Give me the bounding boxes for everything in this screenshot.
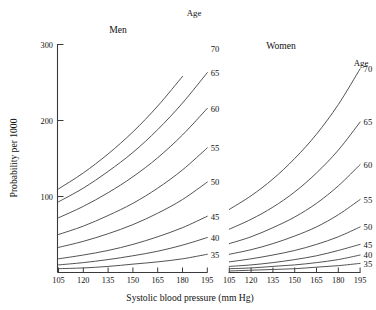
curve-label-women-age-70: 70 — [364, 64, 373, 74]
x-tick-label-men-120: 120 — [77, 276, 89, 285]
y-tick-label-300: 300 — [41, 41, 53, 50]
x-tick-label-men-180: 180 — [176, 276, 188, 285]
curve-women-age-45 — [229, 244, 360, 266]
curve-label-women-age-45: 45 — [364, 240, 373, 250]
curve-label-men-age-60: 60 — [211, 104, 220, 114]
x-axis-men: 105 120 135 150 165 180 195 — [52, 268, 213, 286]
x-tick-label-women-120: 120 — [245, 276, 257, 285]
curve-label-men-age-50: 50 — [211, 177, 220, 187]
curve-label-women-age-50: 50 — [364, 222, 373, 232]
x-tick-label-women-180: 180 — [332, 276, 344, 285]
panel-men: Men Age 105 120 135 150 165 180 195 — [52, 8, 219, 285]
curve-labels-women: 7065605550454035 — [364, 64, 373, 269]
curve-women-age-70 — [229, 69, 360, 210]
y-axis-title: Probability per 1000 — [8, 118, 19, 197]
x-tick-label-women-105: 105 — [223, 276, 235, 285]
x-tick-label-men-195: 195 — [201, 276, 213, 285]
curve-labels-men: 7065605550454035 — [211, 44, 220, 260]
x-tick-label-women-150: 150 — [288, 276, 300, 285]
curve-women-age-40 — [229, 255, 360, 269]
y-tick-label-100: 100 — [41, 193, 53, 202]
curve-label-men-age-40: 40 — [211, 233, 220, 243]
curve-men-age-70 — [59, 76, 183, 188]
x-tick-label-men-105: 105 — [52, 276, 64, 285]
curve-men-age-55 — [59, 148, 208, 235]
curve-men-age-60 — [59, 108, 208, 217]
chart-svg: 300 200 100 Probability per 1000 Men Age… — [0, 0, 376, 310]
panel-women: Women Age 105 120 135 150 165 180 195 — [223, 40, 372, 285]
curve-label-women-age-65: 65 — [364, 117, 373, 127]
curve-men-age-35 — [59, 254, 208, 268]
x-axis-title: Systolic blood pressure (mm Hg) — [126, 292, 253, 304]
curves-women — [229, 69, 360, 271]
panel-title-women: Women — [266, 40, 296, 51]
curve-label-women-age-35: 35 — [364, 259, 373, 269]
x-tick-label-women-165: 165 — [310, 276, 322, 285]
y-tick-label-200: 200 — [41, 117, 53, 126]
curve-men-age-45 — [59, 216, 208, 259]
curve-women-age-50 — [229, 227, 360, 262]
curve-label-women-age-60: 60 — [364, 160, 373, 170]
curve-women-age-55 — [229, 200, 360, 255]
curve-label-men-age-70: 70 — [211, 44, 220, 54]
curve-women-age-60 — [229, 165, 360, 244]
legend-title-men: Age — [187, 8, 202, 18]
x-tick-label-men-150: 150 — [127, 276, 139, 285]
x-tick-label-men-135: 135 — [102, 276, 114, 285]
x-tick-label-women-195: 195 — [354, 276, 366, 285]
curve-label-women-age-55: 55 — [364, 195, 373, 205]
curve-men-age-65 — [59, 73, 208, 202]
y-axis: 300 200 100 Probability per 1000 — [8, 41, 64, 273]
curves-men — [59, 73, 208, 269]
curve-label-men-age-35: 35 — [211, 250, 220, 260]
curve-label-men-age-45: 45 — [211, 212, 220, 222]
curve-label-men-age-65: 65 — [211, 68, 220, 78]
curve-label-men-age-55: 55 — [211, 143, 220, 153]
risk-curve-figure: 300 200 100 Probability per 1000 Men Age… — [0, 0, 376, 310]
x-tick-label-men-165: 165 — [151, 276, 163, 285]
x-tick-label-women-135: 135 — [267, 276, 279, 285]
curve-men-age-50 — [59, 182, 208, 247]
panel-title-men: Men — [109, 24, 127, 35]
